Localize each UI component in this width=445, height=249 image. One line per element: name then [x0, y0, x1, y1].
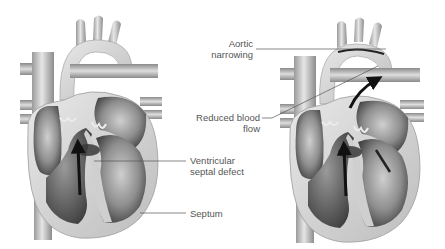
label-line: Ventricular [190, 155, 270, 166]
heart-diagram: Aortic narrowing Reduced blood flow Vent… [0, 0, 445, 249]
label-septum: Septum [190, 208, 250, 219]
label-line: Reduced blood [180, 112, 260, 123]
label-ventricular-septal-defect: Ventricular septal defect [190, 155, 270, 177]
left-heart [20, 16, 162, 241]
label-line: Septum [190, 208, 250, 219]
label-line: narrowing [190, 49, 253, 60]
label-aortic-narrowing: Aortic narrowing [190, 38, 253, 60]
label-reduced-blood-flow: Reduced blood flow [180, 112, 260, 134]
label-line: flow [180, 123, 260, 134]
label-line: septal defect [190, 166, 270, 177]
label-line: Aortic [190, 38, 253, 49]
right-heart [280, 18, 424, 244]
